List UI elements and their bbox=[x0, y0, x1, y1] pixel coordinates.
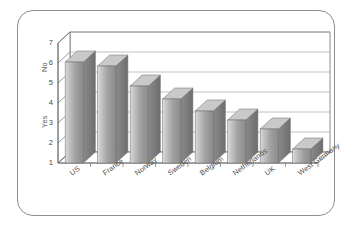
bar-france bbox=[98, 55, 128, 163]
y-tick-label: 2 bbox=[41, 138, 53, 147]
y-tick-label: 1 bbox=[41, 158, 53, 167]
bar-front-face bbox=[98, 66, 116, 163]
y-tick-label: 4 bbox=[41, 98, 53, 107]
bar-side-face bbox=[148, 75, 160, 163]
y-tick-label: 7 bbox=[41, 38, 53, 47]
bar-norway bbox=[130, 75, 160, 163]
bar-chart bbox=[0, 0, 351, 231]
bar-belgium bbox=[195, 100, 225, 163]
bar-sweden bbox=[163, 88, 193, 163]
bar-front-face bbox=[163, 99, 181, 163]
y-axis-title-no: No bbox=[40, 62, 49, 72]
chart-plot-root bbox=[58, 32, 330, 167]
bar-front-face bbox=[130, 86, 148, 163]
bar-side-face bbox=[116, 55, 128, 163]
bar-us bbox=[65, 51, 95, 163]
y-tick-label: 5 bbox=[41, 78, 53, 87]
bar-front-face bbox=[195, 111, 213, 163]
bar-side-face bbox=[83, 51, 95, 163]
bar-side-face bbox=[181, 88, 193, 163]
bar-front-face bbox=[228, 120, 246, 163]
y-axis-title-yes: Yes bbox=[40, 115, 49, 128]
bar-front-face bbox=[65, 62, 83, 163]
